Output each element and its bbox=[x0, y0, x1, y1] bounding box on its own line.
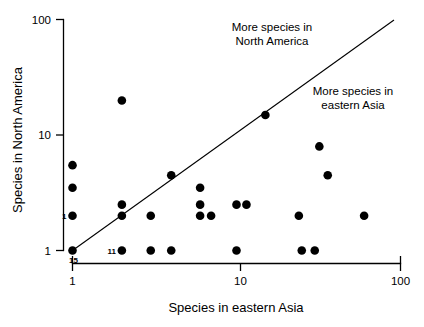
data-point bbox=[196, 212, 205, 221]
data-point bbox=[360, 212, 369, 221]
y-tick-label-10: 10 bbox=[38, 129, 51, 141]
data-point bbox=[196, 184, 205, 193]
annotation-eastern-asia-line2: eastern Asia bbox=[321, 99, 385, 111]
y-axis: 100 10 1 bbox=[32, 14, 64, 257]
x-axis-title: Species in eastern Asia bbox=[168, 300, 304, 315]
data-point bbox=[146, 246, 155, 255]
annotation-eastern-asia: More species in eastern Asia bbox=[313, 85, 394, 111]
data-point bbox=[167, 171, 176, 180]
x-tick-label-10: 10 bbox=[234, 275, 247, 287]
data-point bbox=[232, 200, 241, 209]
annotation-north-america-line1: More species in bbox=[232, 21, 313, 33]
data-point bbox=[295, 212, 304, 221]
annotation-north-america: More species in North America bbox=[232, 21, 313, 47]
data-point bbox=[118, 246, 127, 255]
y-tick-label-1: 1 bbox=[45, 245, 51, 257]
data-point-label: 15 bbox=[69, 256, 78, 265]
data-point bbox=[297, 246, 306, 255]
x-tick-label-1: 1 bbox=[69, 275, 75, 287]
y-axis-title: Species in North America bbox=[10, 66, 25, 213]
data-point bbox=[68, 184, 77, 193]
data-point bbox=[118, 212, 127, 221]
data-point bbox=[315, 142, 324, 151]
data-point bbox=[323, 171, 332, 180]
data-point bbox=[261, 111, 270, 120]
annotation-north-america-line2: North America bbox=[236, 35, 309, 47]
data-point-group bbox=[68, 96, 368, 255]
data-point bbox=[310, 246, 319, 255]
data-point bbox=[68, 212, 77, 221]
data-point bbox=[232, 246, 241, 255]
data-point bbox=[146, 212, 155, 221]
data-point bbox=[167, 246, 176, 255]
plot-canvas: 100 10 1 1 10 100 Species in eastern Asi… bbox=[0, 0, 424, 327]
data-point bbox=[118, 96, 127, 105]
data-point-label: 1 bbox=[62, 212, 67, 221]
data-point bbox=[68, 161, 77, 170]
data-point bbox=[242, 200, 251, 209]
annotation-eastern-asia-line1: More species in bbox=[313, 85, 394, 97]
scatter-plot-figure: 100 10 1 1 10 100 Species in eastern Asi… bbox=[0, 0, 424, 327]
x-tick-label-100: 100 bbox=[391, 275, 410, 287]
data-point bbox=[68, 246, 77, 255]
data-point bbox=[118, 200, 127, 209]
x-axis: 1 10 100 bbox=[69, 256, 410, 287]
data-point bbox=[196, 200, 205, 209]
data-point bbox=[207, 212, 216, 221]
y-tick-label-100: 100 bbox=[32, 14, 51, 26]
data-point-label: 11 bbox=[107, 247, 116, 256]
